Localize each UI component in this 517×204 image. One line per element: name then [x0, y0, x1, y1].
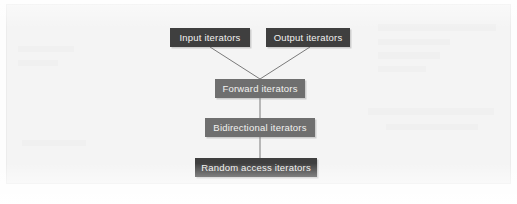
node-input-iterators: Input iterators	[170, 28, 250, 47]
edge-output-to-forward	[260, 47, 310, 79]
node-forward-iterators: Forward iterators	[215, 79, 305, 98]
node-output-iterators: Output iterators	[266, 28, 350, 47]
node-bidirectional-iterators: Bidirectional iterators	[205, 118, 315, 137]
node-label: Input iterators	[179, 33, 240, 43]
node-random-access-iterators: Random access iterators	[195, 158, 317, 177]
node-label: Bidirectional iterators	[213, 123, 306, 133]
node-label: Output iterators	[274, 33, 343, 43]
node-label: Random access iterators	[201, 163, 311, 173]
node-label: Forward iterators	[222, 84, 297, 94]
iterator-hierarchy-figure: Input iterators Output iterators Forward…	[0, 0, 517, 204]
edge-input-to-forward	[210, 47, 260, 79]
